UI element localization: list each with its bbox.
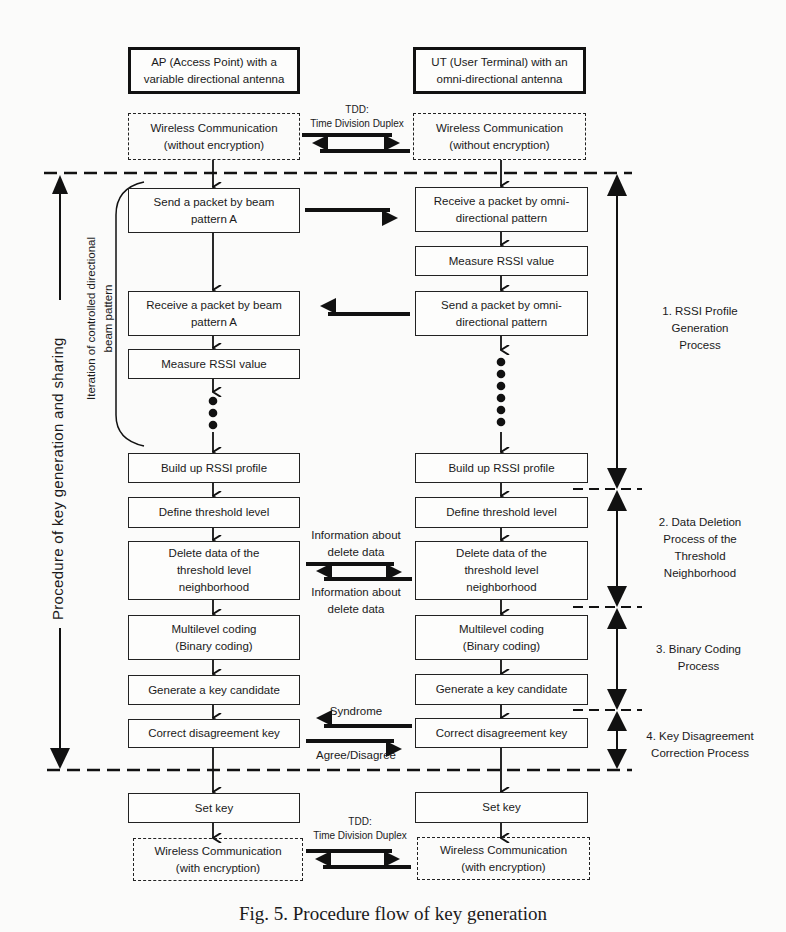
ap-step-set-key: Set key [128, 793, 300, 823]
ut-step-generate-key: Generate a key candidate [415, 674, 588, 705]
ut-step-set-key: Set key [415, 792, 588, 823]
procedure-label: Procedure of key generation and sharing [49, 337, 66, 620]
ap-step-define-threshold: Define threshold level [128, 497, 300, 528]
ut-step-define-threshold: Define threshold level [415, 497, 588, 528]
ap-step-delete-data: Delete data of the threshold level neigh… [128, 541, 300, 600]
figure-caption: Fig. 5. Procedure flow of key generation [0, 903, 786, 925]
connectors-layer [0, 0, 786, 932]
ut-step-receive-packet: Receive a packet by omni- directional pa… [415, 187, 588, 232]
ut-step-build-profile: Build up RSSI profile [415, 453, 588, 483]
phase-label-3: 3. Binary Coding Process [636, 641, 761, 675]
ap-step-send-packet: Send a packet by beam pattern A [128, 188, 300, 233]
phase-label-1: 1. RSSI Profile Generation Process [640, 303, 760, 354]
tdd-label-bottom: TDD: Time Division Duplex [300, 815, 420, 843]
ap-step-build-profile: Build up RSSI profile [128, 453, 300, 483]
phase-label-2: 2. Data Deletion Process of the Threshol… [635, 514, 765, 582]
ap-step-receive-packet: Receive a packet by beam pattern A [128, 291, 300, 336]
phase-span-arrows [607, 174, 627, 769]
ap-wireless-comm-bottom: Wireless Communication (with encryption) [133, 838, 303, 881]
ap-step-generate-key: Generate a key candidate [128, 675, 300, 705]
ut-step-correct-key: Correct disagreement key [415, 718, 588, 748]
ap-step-measure-rssi: Measure RSSI value [128, 349, 300, 379]
ap-step-correct-key: Correct disagreement key [128, 719, 300, 748]
ut-step-multilevel-coding: Multilevel coding (Binary coding) [415, 615, 588, 660]
ut-wireless-comm-top: Wireless Communication (without encrypti… [413, 113, 586, 160]
agree-disagree-label: Agree/Disagree [300, 747, 412, 764]
ut-header-box: UT (User Terminal) with an omni-directio… [413, 47, 586, 94]
info-delete-label-back: Information about delete data [296, 584, 416, 618]
tdd-label-top: TDD: Time Division Duplex [297, 103, 417, 131]
ap-ellipsis-dots [209, 397, 218, 430]
ut-step-send-packet: Send a packet by omni- directional patte… [415, 291, 588, 336]
ap-step-multilevel-coding: Multilevel coding (Binary coding) [128, 615, 300, 660]
syndrome-label: Syndrome [306, 703, 406, 720]
phase-label-4: 4. Key Disagreement Correction Process [630, 728, 770, 762]
ut-wireless-comm-bottom: Wireless Communication (with encryption) [417, 837, 590, 880]
iteration-label: Iteration of controlled directional beam… [83, 237, 117, 400]
ut-step-measure-rssi: Measure RSSI value [415, 246, 588, 276]
ut-ellipsis-dots [497, 358, 506, 427]
ap-header-box: AP (Access Point) with a variable direct… [128, 47, 300, 94]
ap-wireless-comm-top: Wireless Communication (without encrypti… [128, 113, 300, 160]
ut-step-delete-data: Delete data of the threshold level neigh… [415, 541, 588, 600]
info-delete-label-forward: Information about delete data [296, 527, 416, 561]
